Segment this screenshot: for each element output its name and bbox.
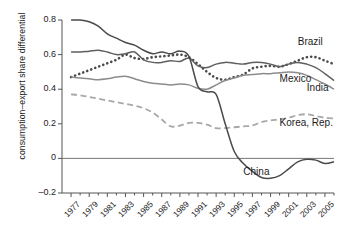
series-line-china: [71, 20, 334, 179]
y-tick-label: 0: [26, 152, 56, 162]
series-label-india: India: [307, 82, 329, 93]
y-tick-label: 0.6: [26, 49, 56, 59]
series-label-korea-rep-: Korea, Rep.: [280, 117, 333, 128]
y-tick-label: 0.4: [26, 83, 56, 93]
plot-area: [62, 20, 334, 193]
series-label-china: China: [243, 166, 269, 177]
chart-svg: [62, 20, 334, 193]
y-tick-label: 0.8: [26, 14, 56, 24]
chart-container: consumption–export share differential –0…: [0, 0, 348, 239]
y-tick-label: 0.2: [26, 118, 56, 128]
y-tick-label: –0.2: [26, 187, 56, 197]
series-label-brazil: Brazil: [298, 36, 323, 47]
